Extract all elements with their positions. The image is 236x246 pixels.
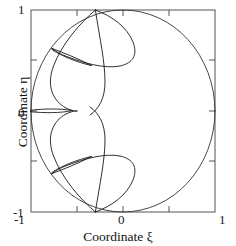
figure-container: -1 0 1 1 0 -1 Coordinate ξ Coordinate η: [0, 0, 236, 246]
x-tick-label-zero: 0: [118, 213, 125, 226]
petal-lower: [52, 155, 135, 212]
curve-group: [31, 10, 215, 212]
y-axis-title: Coordinate η: [15, 37, 31, 187]
y-tick-label-neg-one: -1: [13, 206, 24, 219]
axis-ticks: [31, 10, 215, 212]
caustic-arc-upper-inner: [90, 10, 105, 115]
petal-upper: [52, 10, 135, 67]
lens-lobe-upper: [52, 48, 92, 65]
axes-frame: [31, 10, 215, 212]
lens-lobe-left: [31, 109, 72, 113]
unit-circle-curve: [31, 10, 215, 212]
x-tick-label-one: 1: [219, 213, 226, 226]
x-axis-title: Coordinate ξ: [0, 229, 236, 245]
plot-canvas: [0, 0, 236, 246]
y-tick-label-one: 1: [18, 3, 25, 16]
caustic-arc-lower-inner: [90, 107, 105, 212]
lens-lobe-lower: [52, 156, 92, 173]
